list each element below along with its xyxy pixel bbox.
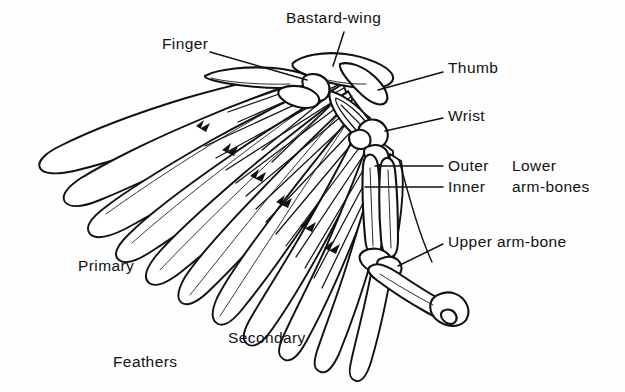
label-arm-bones: arm-bones [512,179,590,195]
label-finger: Finger [162,36,208,52]
lower-arm-bones [363,154,398,257]
wing-anatomy-figure: Bastard-wing Finger Thumb Wrist Outer In… [0,0,625,392]
label-wrist: Wrist [448,108,485,124]
label-primary: Primary [78,258,134,274]
label-lower: Lower [512,158,556,174]
label-feathers: Feathers [113,354,177,370]
label-outer: Outer [448,158,489,174]
label-bastard-wing: Bastard-wing [286,10,381,26]
label-inner: Inner [448,179,485,195]
inner-arm-bone-ulna [379,158,398,257]
label-secondary: Secondary [228,330,306,346]
label-thumb: Thumb [448,60,498,76]
wing-diagram-artwork [0,0,625,392]
label-upper-arm-bone: Upper arm-bone [448,234,566,250]
